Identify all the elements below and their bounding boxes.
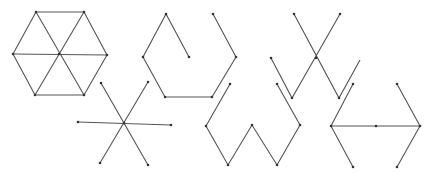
vertex — [227, 164, 230, 167]
vertex — [77, 121, 80, 124]
vertex — [205, 125, 208, 128]
vertex — [212, 13, 215, 16]
w-zigzag-graph — [205, 83, 302, 167]
edge — [271, 14, 340, 98]
vertex — [352, 166, 355, 169]
vertex — [83, 94, 86, 97]
open-hexagon-path-graph — [142, 13, 238, 99]
edge — [294, 14, 360, 98]
vertex — [396, 166, 399, 169]
vertex — [123, 122, 126, 125]
vertex — [352, 83, 355, 86]
vertex — [106, 54, 109, 57]
six-ray-star-graph — [77, 81, 173, 167]
graph-figure — [0, 0, 433, 173]
vertex — [375, 125, 378, 128]
crossed-zigzag-graph — [270, 13, 360, 100]
vertex — [188, 56, 191, 59]
vertex — [396, 83, 399, 86]
vertex — [338, 97, 341, 100]
vertex — [419, 125, 422, 128]
vertex — [299, 124, 302, 127]
vertex — [99, 162, 102, 165]
vertex — [142, 56, 145, 59]
vertex — [35, 11, 38, 14]
edge — [143, 14, 236, 97]
vertex — [12, 53, 15, 56]
hexagon-wheel-graph — [12, 11, 109, 97]
vertex — [291, 97, 294, 100]
vertex — [100, 82, 103, 85]
vertex — [211, 96, 214, 99]
vertex — [270, 57, 273, 60]
vertex — [276, 83, 279, 86]
vertex — [83, 11, 86, 14]
vertex — [229, 83, 232, 86]
vertex — [164, 96, 167, 99]
vertex — [293, 13, 296, 16]
vertex — [330, 125, 333, 128]
vertex — [147, 81, 150, 84]
vertex — [251, 124, 254, 127]
vertex — [339, 13, 342, 16]
vertex — [58, 53, 61, 56]
double-chevron-graph — [330, 83, 422, 169]
vertex — [34, 94, 37, 97]
vertex — [147, 164, 150, 167]
vertex — [170, 124, 173, 127]
vertex — [165, 13, 168, 16]
vertex — [276, 164, 279, 167]
vertex — [315, 57, 318, 60]
vertex — [235, 56, 238, 59]
